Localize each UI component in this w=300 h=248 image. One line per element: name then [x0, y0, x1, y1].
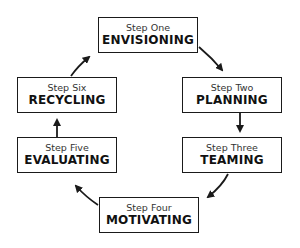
step-six-name: RECYCLING	[28, 93, 105, 108]
step-one-box: Step One ENVISIONING	[98, 17, 198, 53]
arrow-three-to-four	[208, 174, 228, 197]
step-six-box: Step Six RECYCLING	[17, 77, 117, 113]
cycle-diagram: Step One ENVISIONING Step Two PLANNING S…	[0, 0, 300, 248]
step-six-label: Step Six	[48, 82, 87, 93]
step-two-name: PLANNING	[196, 93, 268, 108]
step-three-name: TEAMING	[200, 153, 263, 168]
step-two-box: Step Two PLANNING	[182, 77, 282, 113]
step-four-box: Step Four MOTIVATING	[99, 197, 199, 233]
step-three-label: Step Three	[206, 142, 258, 153]
arrow-four-to-five	[76, 186, 98, 205]
arrow-six-to-one	[71, 57, 89, 76]
step-four-name: MOTIVATING	[106, 213, 192, 228]
step-four-label: Step Four	[126, 202, 172, 213]
step-five-label: Step Five	[45, 142, 89, 153]
step-one-name: ENVISIONING	[102, 33, 194, 48]
step-three-box: Step Three TEAMING	[182, 137, 282, 173]
step-two-label: Step Two	[211, 82, 253, 93]
arrow-one-to-two	[199, 47, 222, 70]
step-five-name: EVALUATING	[24, 153, 109, 168]
step-one-label: Step One	[126, 22, 170, 33]
step-five-box: Step Five EVALUATING	[17, 137, 117, 173]
